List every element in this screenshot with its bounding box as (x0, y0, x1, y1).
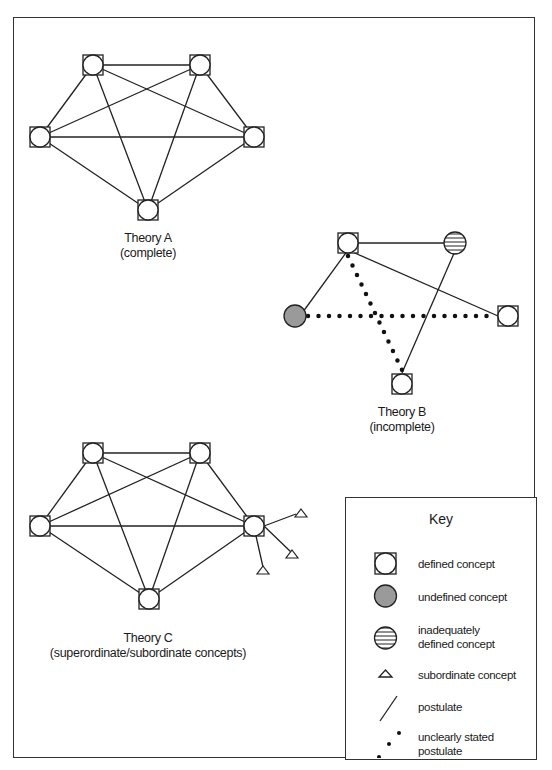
key-item-subordinate: subordinate concept (418, 668, 516, 682)
key-item-undefined: undefined concept (418, 590, 507, 604)
theory-a-title: Theory A (98, 231, 198, 246)
defined-concept-icon (338, 233, 358, 253)
theory-b-label: Theory B (incomplete) (352, 405, 452, 435)
undefined-concept-icon (284, 305, 306, 327)
theory-a-subtitle: (complete) (98, 246, 198, 261)
defined-concept-icon (30, 516, 50, 536)
defined-concept-icon (138, 200, 158, 220)
square-circle-icon (375, 553, 396, 574)
defined-concept-icon (244, 127, 264, 147)
defined-concept-icon (30, 127, 50, 147)
theory-c-subtitle: (superordinate/subordinate concepts) (48, 646, 248, 661)
defined-concept-icon (244, 516, 264, 536)
defined-concept-icon (139, 589, 159, 609)
subordinate-concept-icon (257, 566, 269, 574)
triangle-icon (379, 670, 392, 677)
defined-concept-icon (190, 55, 210, 75)
defined-concept-icon (190, 443, 210, 463)
key-item-inadequately-defined: inadequately defined concept (418, 623, 518, 651)
theory-a-graph (40, 65, 254, 210)
defined-concept-icon (498, 306, 518, 326)
gray-circle-icon (375, 585, 397, 607)
dotted-line-icon (377, 731, 401, 758)
theory-b-graph (300, 243, 498, 373)
defined-concept-icon (83, 443, 103, 463)
theory-c-title: Theory C (48, 631, 248, 646)
solid-line-icon (380, 696, 397, 721)
defined-concept-icon (83, 55, 103, 75)
theory-c-label: Theory C (superordinate/subordinate conc… (48, 631, 248, 661)
subordinate-concept-icon (286, 550, 298, 558)
key-legend: Key defined concept undefined concept in… (345, 497, 537, 760)
inadequately-defined-concept-icon (444, 232, 466, 254)
defined-concept-icon (392, 374, 412, 394)
theory-b-title: Theory B (352, 405, 452, 420)
striped-circle-icon (375, 627, 397, 649)
theory-b-subtitle: (incomplete) (352, 420, 452, 435)
subordinate-concept-icon (295, 509, 307, 517)
key-item-postulate: postulate (418, 700, 462, 714)
key-item-defined: defined concept (418, 557, 495, 571)
theory-a-label: Theory A (complete) (98, 231, 198, 261)
key-item-unclear-postulate: unclearly stated postulate (418, 730, 513, 758)
